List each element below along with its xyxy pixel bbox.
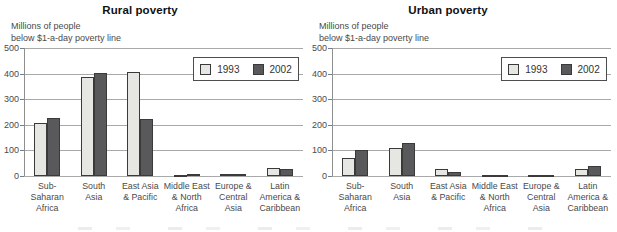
tick-0 — [20, 176, 24, 177]
bar-2002-sub-saharan-africa — [47, 118, 60, 176]
bar-1993-latin-america-caribbean — [575, 169, 588, 176]
legend-label-1993: 1993 — [217, 64, 239, 75]
gridline-500 — [24, 48, 303, 49]
y-axis-line — [24, 48, 25, 176]
category-label-latin-america-caribbean: LatinAmerica &Caribbean — [252, 181, 308, 214]
legend-rural: 1993 2002 — [193, 57, 299, 81]
tick-label-500: 500 — [308, 43, 327, 53]
category-label-latin-america-caribbean: LatinAmerica &Caribbean — [560, 181, 616, 214]
tick-label-200: 200 — [308, 120, 327, 130]
category-label-line: Caribbean — [252, 203, 308, 214]
rural-poverty-panel: Rural poverty Millions of people below $… — [0, 0, 308, 232]
legend-swatch-1993 — [508, 64, 519, 75]
bar-2002-middle-east-north-africa — [495, 175, 508, 177]
category-label-line: Latin — [560, 181, 616, 192]
bar-2002-south-asia — [402, 143, 415, 176]
gridline-0 — [332, 176, 611, 177]
gridline-500 — [332, 48, 611, 49]
tick-label-400: 400 — [0, 69, 19, 79]
urban-poverty-panel: Urban poverty Millions of people below $… — [308, 0, 616, 232]
legend-label-2002: 2002 — [578, 64, 600, 75]
bar-1993-south-asia — [389, 148, 402, 176]
bar-1993-sub-saharan-africa — [342, 158, 355, 176]
bar-1993-east-asia-pacific — [435, 169, 448, 176]
bar-2002-east-asia-pacific — [140, 119, 153, 176]
gridline-300 — [332, 99, 611, 100]
legend-label-1993: 1993 — [525, 64, 547, 75]
tick-label-500: 500 — [0, 43, 19, 53]
poverty-figure: Rural poverty Millions of people below $… — [0, 0, 617, 232]
category-label-line: America & — [560, 192, 616, 203]
legend-swatch-2002 — [253, 64, 264, 75]
bar-2002-east-asia-pacific — [448, 172, 461, 176]
tick-label-300: 300 — [308, 94, 327, 104]
tick-0 — [328, 176, 332, 177]
category-label-line: Latin — [252, 181, 308, 192]
tick-label-200: 200 — [0, 120, 19, 130]
y-axis-line — [332, 48, 333, 176]
bar-2002-latin-america-caribbean — [588, 166, 601, 176]
bar-1993-sub-saharan-africa — [34, 123, 47, 176]
bar-1993-middle-east-north-africa — [482, 175, 495, 177]
gridline-100 — [332, 150, 611, 151]
gridline-300 — [24, 99, 303, 100]
bar-1993-europe-central-asia — [220, 174, 233, 176]
gridline-200 — [332, 125, 611, 126]
bar-1993-europe-central-asia — [528, 175, 541, 177]
tick-label-0: 0 — [0, 171, 19, 181]
tick-label-100: 100 — [308, 145, 327, 155]
category-label-line: America & — [252, 192, 308, 203]
legend-label-2002: 2002 — [270, 64, 292, 75]
legend-swatch-2002 — [561, 64, 572, 75]
bar-2002-europe-central-asia — [233, 174, 246, 176]
gridline-200 — [24, 125, 303, 126]
bar-2002-sub-saharan-africa — [355, 150, 368, 176]
category-label-line: Africa — [19, 203, 75, 214]
bar-1993-south-asia — [81, 77, 94, 176]
tick-label-100: 100 — [0, 145, 19, 155]
bar-1993-middle-east-north-africa — [174, 175, 187, 177]
cutoff-caption-artifact — [78, 227, 548, 230]
bar-2002-south-asia — [94, 73, 107, 176]
plot-area-rural: 0100200300400500Sub-SaharanAfricaSouthAs… — [0, 0, 308, 232]
category-label-line: Africa — [327, 203, 383, 214]
gridline-0 — [24, 176, 303, 177]
bar-2002-europe-central-asia — [541, 175, 554, 177]
bar-1993-east-asia-pacific — [127, 72, 140, 176]
legend-urban: 1993 2002 — [501, 57, 607, 81]
category-label-line: Caribbean — [560, 203, 616, 214]
gridline-100 — [24, 150, 303, 151]
bar-2002-latin-america-caribbean — [280, 169, 293, 176]
tick-label-300: 300 — [0, 94, 19, 104]
legend-swatch-1993 — [200, 64, 211, 75]
plot-area-urban: 0100200300400500Sub-SaharanAfricaSouthAs… — [308, 0, 616, 232]
bar-2002-middle-east-north-africa — [187, 174, 200, 176]
tick-label-400: 400 — [308, 69, 327, 79]
tick-label-0: 0 — [308, 171, 327, 181]
bar-1993-latin-america-caribbean — [267, 168, 280, 176]
